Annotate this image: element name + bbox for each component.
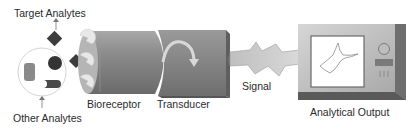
signal-label: Signal [242,80,271,92]
cylinder-analyte-icon [24,63,35,81]
other-arrow-head-icon [39,96,45,100]
transducer-label: Transducer [157,98,210,110]
block-analyte-icon [43,80,61,88]
device-slot-icon [375,59,393,66]
bioreceptor-group [78,29,164,94]
sphere-analyte-icon [48,56,62,70]
biosensor-diagram: Target Analytes Other Analytes Biorecept… [0,0,417,130]
bioreceptor-body [88,31,164,94]
other-analytes-label: Other Analytes [13,112,82,124]
device-right-bevel [395,24,406,100]
transducer-group [158,30,230,98]
other-analytes-group [18,48,66,108]
target-analytes-label: Target Analytes [14,7,86,19]
analytical-output-label: Analytical Output [310,106,389,118]
analytical-output-device [298,24,406,100]
bioreceptor-label: Bioreceptor [87,98,141,110]
device-knob-icon [379,44,390,55]
target-analyte-diamond-icon [47,31,63,47]
signal-group [226,42,300,76]
device-bottom-bevel [298,92,406,100]
target-analytes-group [47,18,63,46]
